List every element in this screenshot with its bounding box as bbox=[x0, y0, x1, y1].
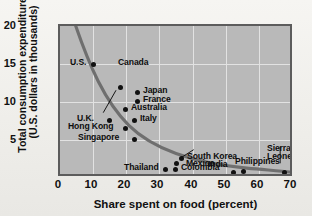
x-tick-70: 70 bbox=[275, 178, 305, 190]
point-label-australia: Australia bbox=[131, 102, 167, 112]
point-label-sierra-leone-line2: Leone bbox=[267, 151, 292, 161]
point-label-india: India bbox=[208, 159, 228, 169]
x-tick-50: 50 bbox=[209, 178, 239, 190]
data-point-south-korea[interactable] bbox=[179, 156, 184, 161]
y-tick-10: 10 bbox=[0, 95, 16, 107]
y-tick-15: 15 bbox=[0, 57, 16, 69]
data-point-italy[interactable] bbox=[132, 118, 137, 123]
y-tick-5: 5 bbox=[0, 133, 16, 145]
label-leader-lines bbox=[60, 26, 290, 174]
x-tick-30: 30 bbox=[142, 178, 172, 190]
data-point-thailand[interactable] bbox=[163, 167, 168, 172]
point-label-italy: Italy bbox=[140, 113, 157, 123]
data-point-sierra-leone[interactable] bbox=[282, 170, 287, 175]
x-axis-title: Share spent on food (percent) bbox=[58, 198, 293, 210]
data-point-us[interactable] bbox=[91, 62, 96, 67]
y-axis-title-line2: (U.S. dollars in thousands) bbox=[28, 6, 40, 139]
point-label-us: U.S. bbox=[70, 57, 86, 67]
data-point-japan[interactable] bbox=[135, 90, 140, 95]
point-label-singapore: Singapore bbox=[78, 132, 119, 142]
data-point-india[interactable] bbox=[231, 170, 236, 175]
x-tick-20: 20 bbox=[109, 178, 139, 190]
data-point-singapore[interactable] bbox=[132, 137, 137, 142]
x-tick-40: 40 bbox=[176, 178, 206, 190]
plot-area: U.S. Canada Japan France Australia U.K. … bbox=[58, 24, 292, 176]
x-tick-10: 10 bbox=[76, 178, 106, 190]
point-label-thailand: Thailand bbox=[124, 162, 159, 172]
point-label-hong-kong: Hong Kong bbox=[68, 121, 113, 131]
data-point-colombia[interactable] bbox=[173, 167, 178, 172]
data-point-australia[interactable] bbox=[123, 107, 128, 112]
y-tick-20: 20 bbox=[0, 19, 16, 31]
data-point-mexico[interactable] bbox=[174, 161, 179, 166]
data-point-hong-kong[interactable] bbox=[123, 126, 128, 131]
x-tick-60: 60 bbox=[242, 178, 272, 190]
x-tick-0: 0 bbox=[43, 178, 73, 190]
point-label-canada: Canada bbox=[118, 57, 148, 67]
data-point-philippines[interactable] bbox=[241, 169, 246, 174]
data-point-canada[interactable] bbox=[118, 85, 123, 90]
chart-figure: Total consumption expenditures (U.S. dol… bbox=[0, 0, 312, 216]
